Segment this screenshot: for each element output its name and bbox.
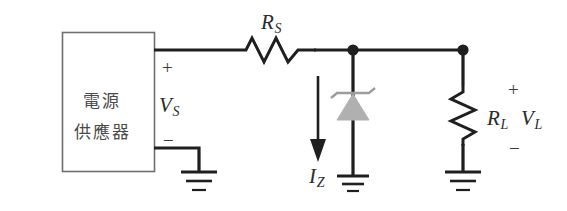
load-voltage-subscript: L [534,117,543,132]
zener-current-subscript: Z [316,175,325,190]
source-voltage-subscript: S [172,104,180,119]
load-plus-sign: + [508,80,519,99]
load-voltage-label: VL [521,108,543,132]
power-supply-label-line2: 供應器 [74,118,131,143]
series-resistor-symbol-text: R [261,10,274,34]
circuit-diagram: 電源 供應器 + VS − RS IZ + RL VL − [0,0,567,211]
load-resistor-subscript: L [500,117,509,132]
zener-current-label: IZ [309,166,325,190]
series-resistor-subscript: S [274,21,282,36]
zener-diode-triangle [337,94,369,120]
series-resistor-symbol [240,38,316,62]
load-resistor-symbol-text: R [487,106,500,130]
power-supply-label-line1: 電源 [83,87,121,112]
zener-current-arrow-head [310,139,326,162]
wire-source-negative-to-ground [154,148,199,172]
series-resistor-label: RS [261,12,282,36]
source-voltage-label: VS [159,95,180,119]
source-voltage-symbol: V [159,93,172,117]
source-plus-sign: + [162,58,173,77]
load-resistor-label: RL [487,108,509,132]
load-minus-sign: − [509,139,520,158]
load-resistor-symbol [451,86,475,146]
load-voltage-symbol: V [521,106,534,130]
source-minus-sign: − [163,131,174,150]
